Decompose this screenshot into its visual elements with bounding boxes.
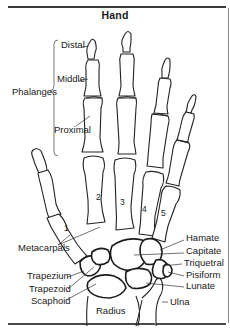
label-trapezium: Trapezium xyxy=(27,271,72,281)
metacarpal-number-3: 3 xyxy=(120,198,125,207)
label-metacarpals: Metacarpals xyxy=(18,243,70,253)
metacarpal-number-1: 1 xyxy=(64,224,69,233)
label-middle: Middle xyxy=(57,74,85,84)
metacarpal-number-4: 4 xyxy=(142,205,147,214)
label-hamate: Hamate xyxy=(186,233,219,243)
metacarpal-number-5: 5 xyxy=(161,209,166,218)
middle-finger-bones xyxy=(114,32,137,231)
label-capitate: Capitate xyxy=(186,246,221,256)
label-scaphoid: Scaphoid xyxy=(31,296,71,306)
label-lunate: Lunate xyxy=(186,281,215,291)
metacarpal-number-2: 2 xyxy=(96,193,101,202)
label-proximal: Proximal xyxy=(54,125,91,135)
label-pisiform: Pisiform xyxy=(186,270,220,280)
label-phalanges: Phalanges xyxy=(12,87,57,97)
label-triquetral: Triquetral xyxy=(184,258,224,268)
label-distal: Distal xyxy=(61,40,85,50)
label-trapezoid: Trapezoid xyxy=(29,284,71,294)
phalanges-brace xyxy=(50,40,58,156)
label-radius: Radius xyxy=(96,306,126,316)
label-ulna: Ulna xyxy=(170,297,190,307)
